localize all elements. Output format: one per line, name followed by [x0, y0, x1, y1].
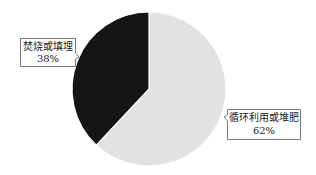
callout-incineration-landfill: 焚烧或填埋 38% [21, 39, 80, 67]
pie-chart: 焚烧或填埋 38% 循环利用或堆肥 62% [0, 0, 316, 175]
callout-label-value: 38% [37, 53, 59, 64]
callout-label-value: 62% [253, 125, 275, 136]
callout-label-name: 循环利用或堆肥 [229, 111, 299, 123]
callout-recycle-compost: 循环利用或堆肥 62% [224, 110, 301, 140]
pie-slices [72, 12, 226, 166]
callout-label-name: 焚烧或填埋 [23, 40, 73, 52]
